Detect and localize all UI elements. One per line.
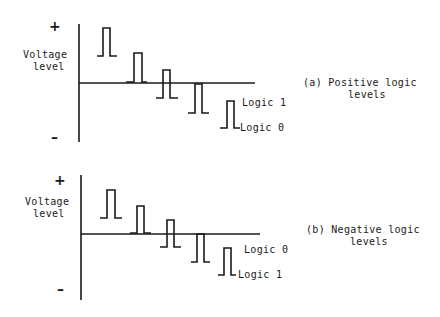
- pulse-2: [130, 206, 151, 233]
- pulse-4: [191, 234, 210, 262]
- minus-sign: –: [51, 130, 58, 144]
- caption-line2: levels: [348, 89, 386, 101]
- caption-line1: (a) Positive logic: [303, 77, 417, 89]
- caption-line1: (b) Negative logic: [306, 224, 420, 236]
- pulse-3: [156, 70, 178, 98]
- pulse-2: [126, 53, 147, 82]
- pulse-1: [97, 28, 117, 56]
- legend-upper-level: Logic 0: [244, 244, 288, 255]
- legend-upper-level: Logic 1: [242, 97, 286, 108]
- y-axis-label-line2: level: [33, 61, 65, 72]
- pulse-4: [188, 84, 209, 113]
- legend-pulse: [218, 248, 236, 275]
- legend-lower-level: Logic 0: [240, 122, 284, 133]
- pulse-1: [100, 190, 122, 218]
- pulse-diagrams: [0, 0, 440, 317]
- diagram-a-lines: [79, 24, 255, 142]
- y-axis-label: Voltage: [23, 49, 67, 60]
- y-axis-label-line2: level: [33, 208, 65, 219]
- legend-lower-level: Logic 1: [238, 269, 282, 280]
- legend-pulse: [220, 101, 240, 128]
- plus-sign: +: [54, 173, 66, 187]
- minus-sign: –: [57, 282, 64, 296]
- caption-line2: levels: [350, 236, 388, 248]
- plus-sign: +: [49, 19, 61, 33]
- y-axis-label: Voltage: [25, 196, 69, 207]
- diagram-b-lines: [81, 175, 260, 300]
